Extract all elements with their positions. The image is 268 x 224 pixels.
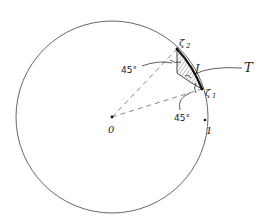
label-arc-J: J — [193, 62, 200, 75]
label-region-T: T — [244, 60, 254, 75]
leader-angle-top — [142, 62, 172, 66]
label-angle-top: 45° — [121, 65, 137, 75]
label-zeta1: ζ — [205, 87, 211, 98]
leader-T — [195, 68, 242, 74]
point-origin — [111, 116, 114, 119]
label-zeta1-sub: 1 — [212, 92, 216, 100]
label-origin: 0 — [108, 124, 115, 135]
point-zeta1 — [201, 88, 204, 91]
dashed-radius-zeta2 — [112, 49, 177, 117]
diagram-canvas: 0 1 ζ 2 ζ 1 J T 45° 45° — [0, 0, 268, 224]
point-zeta2 — [176, 48, 179, 51]
point-one — [204, 119, 207, 122]
label-zeta2: ζ — [179, 37, 185, 48]
label-one: 1 — [206, 125, 212, 136]
label-zeta2-sub: 2 — [185, 42, 191, 50]
label-angle-bottom: 45° — [174, 113, 190, 123]
